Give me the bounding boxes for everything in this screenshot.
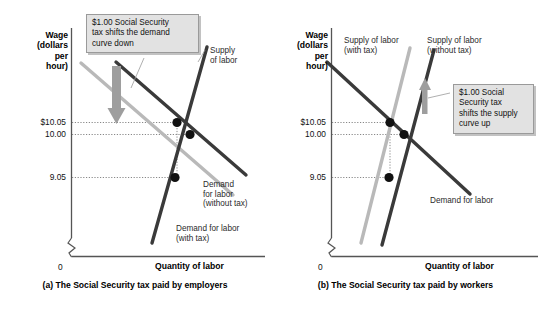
y-axis-title-b: Wage (dollars per hour) — [266, 30, 328, 72]
y-tick-10-00-b: 10.00 — [272, 130, 326, 139]
y-tick-9-05-a: 9.05 — [12, 173, 66, 182]
y-tick-9-05-b: 9.05 — [272, 173, 326, 182]
callout-supply-shift: $1.00 Social Security tax shifts the sup… — [453, 84, 534, 134]
figure-container: Wage (dollars per hour) $10.05 10.00 9.0… — [0, 0, 541, 309]
origin-label-b: 0 — [318, 262, 323, 272]
panel-b: Wage (dollars per hour) $10.05 10.00 9.0… — [270, 0, 540, 309]
callout-demand-shift: $1.00 Social Security tax shifts the dem… — [86, 14, 199, 53]
panel-a: Wage (dollars per hour) $10.05 10.00 9.0… — [0, 0, 270, 309]
curve-label-supply-a: Supply of labor — [210, 46, 237, 65]
x-axis-title-a: Quantity of labor — [155, 261, 224, 271]
curve-label-supply-without-tax: Supply of labor (without tax) — [427, 36, 482, 55]
y-tick-10-05-b: $10.05 — [272, 118, 326, 127]
curve-demand-with-tax — [81, 63, 233, 195]
curve-demand — [327, 62, 470, 194]
gridlines-group — [332, 123, 404, 179]
curve-label-demand-with-tax: Demand for labor (with tax) — [176, 224, 239, 243]
shift-arrow-down — [108, 66, 126, 124]
dot-wage-10-05 — [385, 118, 394, 127]
curve-supply-with-tax — [361, 48, 410, 243]
x-axis-title-b: Quantity of labor — [425, 261, 494, 271]
curve-label-supply-with-tax: Supply of labor (with tax) — [344, 36, 399, 55]
callout-leader-line — [428, 93, 450, 98]
y-tick-10-00-a: 10.00 — [12, 130, 66, 139]
curve-demand-without-tax — [116, 62, 246, 175]
y-tick-10-05-a: $10.05 — [12, 118, 66, 127]
curve-supply — [152, 47, 207, 243]
caption-panel-b: (b) The Social Security tax paid by work… — [270, 280, 541, 290]
dot-wage-9-05 — [384, 173, 393, 182]
dot-equilibrium-10-00 — [185, 130, 194, 139]
curve-label-demand-b: Demand for labor — [430, 196, 493, 206]
caption-panel-a: (a) The Social Security tax paid by empl… — [0, 280, 270, 290]
curve-label-demand-without-tax: Demand for labor (without tax) — [203, 180, 248, 209]
axes-group — [328, 28, 538, 257]
y-axis-title-a: Wage (dollars per hour) — [6, 30, 68, 72]
dot-wage-10-05 — [172, 118, 181, 127]
curve-supply-without-tax — [382, 50, 434, 245]
origin-label-a: 0 — [58, 262, 63, 272]
dot-equilibrium-10-00 — [399, 130, 408, 139]
dot-wage-9-05 — [170, 173, 179, 182]
